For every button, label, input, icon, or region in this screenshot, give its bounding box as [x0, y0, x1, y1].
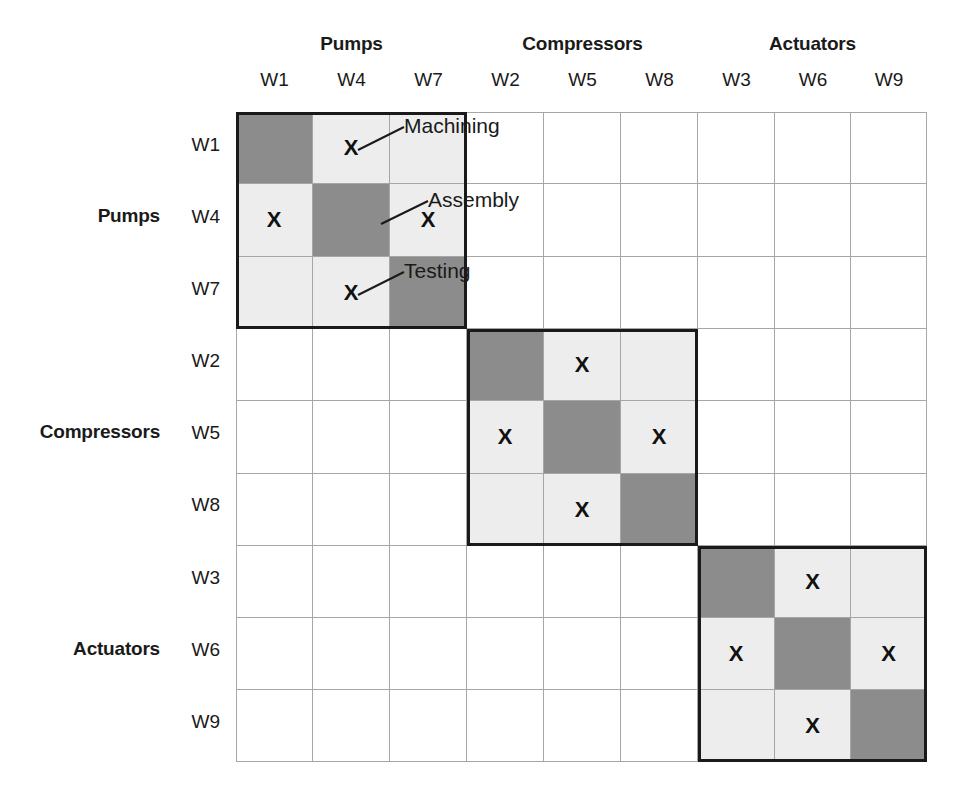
matrix-cell-w3-w1[interactable]: [236, 546, 313, 618]
row-header-w2: W2: [165, 350, 220, 372]
row-header-w7: W7: [165, 278, 220, 300]
relationship-mark: X: [775, 546, 850, 617]
matrix-cell-w6-w7[interactable]: [390, 618, 467, 690]
matrix-cell-w1-w5[interactable]: [544, 112, 621, 184]
matrix-cell-w2-w3[interactable]: [698, 329, 775, 401]
matrix-cell-w7-w2[interactable]: [467, 257, 544, 329]
matrix-cell-w4-w5[interactable]: [544, 184, 621, 257]
matrix-cell-w6-w1[interactable]: [236, 618, 313, 690]
row-header-w6: W6: [165, 639, 220, 661]
matrix-cell-w8-w9[interactable]: [851, 474, 927, 546]
matrix-cell-w3-w2[interactable]: [467, 546, 544, 618]
matrix-cell-w1-w9[interactable]: [851, 112, 927, 184]
matrix-cell-w1-w6[interactable]: [775, 112, 851, 184]
column-header-w8: W8: [621, 69, 698, 91]
column-group-label-compressors: Compressors: [467, 33, 698, 55]
matrix-cell-w6-w8[interactable]: [621, 618, 698, 690]
matrix-cell-w8-w2[interactable]: [467, 474, 544, 546]
matrix-cell-w2-w7[interactable]: [390, 329, 467, 401]
matrix-cell-w1-w3[interactable]: [698, 112, 775, 184]
matrix-cell-w9-w5[interactable]: [544, 690, 621, 762]
matrix-cell-w5-w5[interactable]: [544, 401, 621, 474]
matrix-cell-w9-w8[interactable]: [621, 690, 698, 762]
matrix-cell-w8-w8[interactable]: [621, 474, 698, 546]
matrix-cell-w1-w4[interactable]: X: [313, 112, 390, 184]
matrix-cell-w2-w6[interactable]: [775, 329, 851, 401]
row-group-label-compressors: Compressors: [0, 421, 160, 443]
matrix-cell-w1-w8[interactable]: [621, 112, 698, 184]
matrix-cell-w7-w5[interactable]: [544, 257, 621, 329]
matrix-cell-w8-w6[interactable]: [775, 474, 851, 546]
column-header-w9: W9: [851, 69, 927, 91]
matrix-cell-w9-w2[interactable]: [467, 690, 544, 762]
matrix-cell-w4-w4[interactable]: [313, 184, 390, 257]
matrix-cell-w1-w1[interactable]: [236, 112, 313, 184]
column-header-w6: W6: [775, 69, 851, 91]
relationship-mark: X: [467, 401, 543, 473]
matrix-cell-w8-w1[interactable]: [236, 474, 313, 546]
matrix-cell-w9-w7[interactable]: [390, 690, 467, 762]
matrix-cell-w8-w4[interactable]: [313, 474, 390, 546]
matrix-cell-w5-w9[interactable]: [851, 401, 927, 474]
matrix-cell-w9-w4[interactable]: [313, 690, 390, 762]
matrix-cell-w2-w5[interactable]: X: [544, 329, 621, 401]
relationship-mark: X: [313, 257, 389, 328]
matrix-cell-w7-w8[interactable]: [621, 257, 698, 329]
matrix-grid: XXXXXXXXXXXX: [236, 112, 927, 762]
column-group-label-actuators: Actuators: [698, 33, 927, 55]
matrix-cell-w8-w5[interactable]: X: [544, 474, 621, 546]
matrix-cell-w9-w3[interactable]: [698, 690, 775, 762]
relationship-mark: X: [236, 184, 312, 256]
matrix-cell-w4-w9[interactable]: [851, 184, 927, 257]
column-header-w5: W5: [544, 69, 621, 91]
matrix-cell-w7-w9[interactable]: [851, 257, 927, 329]
row-header-w4: W4: [165, 206, 220, 228]
matrix-cell-w6-w4[interactable]: [313, 618, 390, 690]
matrix-cell-w7-w4[interactable]: X: [313, 257, 390, 329]
matrix-cell-w2-w1[interactable]: [236, 329, 313, 401]
matrix-cell-w7-w3[interactable]: [698, 257, 775, 329]
matrix-cell-w3-w5[interactable]: [544, 546, 621, 618]
matrix-cell-w3-w9[interactable]: [851, 546, 927, 618]
matrix-cell-w3-w8[interactable]: [621, 546, 698, 618]
matrix-cell-w5-w7[interactable]: [390, 401, 467, 474]
matrix-cell-w5-w6[interactable]: [775, 401, 851, 474]
matrix-cell-w9-w1[interactable]: [236, 690, 313, 762]
matrix-cell-w6-w5[interactable]: [544, 618, 621, 690]
relationship-mark: X: [698, 618, 774, 689]
matrix-cell-w8-w7[interactable]: [390, 474, 467, 546]
matrix-cell-w3-w3[interactable]: [698, 546, 775, 618]
matrix-cell-w3-w6[interactable]: X: [775, 546, 851, 618]
matrix-cell-w4-w6[interactable]: [775, 184, 851, 257]
matrix-cell-w2-w2[interactable]: [467, 329, 544, 401]
matrix-cell-w6-w9[interactable]: X: [851, 618, 927, 690]
relationship-mark: X: [313, 112, 389, 183]
matrix-cell-w6-w3[interactable]: X: [698, 618, 775, 690]
matrix-cell-w3-w7[interactable]: [390, 546, 467, 618]
matrix-cell-w5-w3[interactable]: [698, 401, 775, 474]
relationship-mark: X: [851, 618, 926, 689]
matrix-cell-w7-w6[interactable]: [775, 257, 851, 329]
matrix-cell-w6-w2[interactable]: [467, 618, 544, 690]
matrix-cell-w4-w3[interactable]: [698, 184, 775, 257]
matrix-cell-w5-w8[interactable]: X: [621, 401, 698, 474]
matrix-cell-w2-w4[interactable]: [313, 329, 390, 401]
matrix-cell-w9-w9[interactable]: [851, 690, 927, 762]
annotation-machining: Machining: [404, 114, 500, 138]
row-header-w1: W1: [165, 134, 220, 156]
matrix-cell-w7-w1[interactable]: [236, 257, 313, 329]
matrix-cell-w2-w9[interactable]: [851, 329, 927, 401]
column-header-w4: W4: [313, 69, 390, 91]
matrix-cell-w5-w2[interactable]: X: [467, 401, 544, 474]
matrix-cell-w2-w8[interactable]: [621, 329, 698, 401]
matrix-cell-w3-w4[interactable]: [313, 546, 390, 618]
matrix-cell-w6-w6[interactable]: [775, 618, 851, 690]
matrix-cell-w4-w8[interactable]: [621, 184, 698, 257]
row-header-w8: W8: [165, 494, 220, 516]
matrix-cell-w9-w6[interactable]: X: [775, 690, 851, 762]
row-group-label-actuators: Actuators: [0, 638, 160, 660]
matrix-cell-w4-w1[interactable]: X: [236, 184, 313, 257]
matrix-cell-w5-w1[interactable]: [236, 401, 313, 474]
matrix-cell-w5-w4[interactable]: [313, 401, 390, 474]
matrix-cell-w8-w3[interactable]: [698, 474, 775, 546]
